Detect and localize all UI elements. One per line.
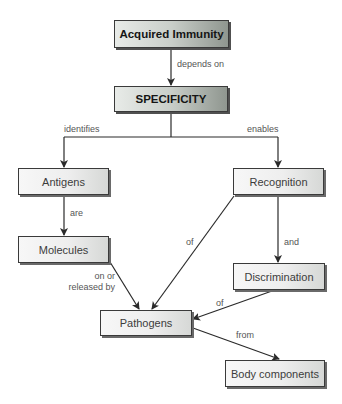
node-recognition: Recognition — [233, 168, 324, 195]
node-pathogens: Pathogens — [100, 310, 192, 336]
arrow-of-discrimination — [193, 291, 272, 319]
label-are: are — [70, 208, 83, 218]
connector-lines — [0, 0, 342, 404]
label-enables: enables — [247, 124, 279, 134]
arrow-of-recognition — [152, 196, 234, 309]
node-antigens: Antigens — [18, 168, 109, 195]
label-and: and — [284, 237, 299, 247]
label-of-recognition: of — [186, 237, 194, 247]
label-identifies: identifies — [64, 124, 100, 134]
label-of-discrimination: of — [216, 298, 224, 308]
label-released-by: released by — [55, 282, 115, 292]
node-specificity: SPECIFICITY — [114, 86, 228, 112]
label-on-or: on or — [68, 271, 115, 281]
label-depends-on: depends on — [177, 59, 224, 69]
node-discrimination: Discrimination — [233, 263, 325, 290]
concept-map: Acquired Immunity SPECIFICITY Antigens R… — [0, 0, 342, 404]
label-from: from — [236, 330, 254, 340]
node-acquired-immunity: Acquired Immunity — [114, 20, 229, 48]
node-molecules: Molecules — [18, 236, 109, 263]
node-body-components: Body components — [225, 360, 325, 387]
